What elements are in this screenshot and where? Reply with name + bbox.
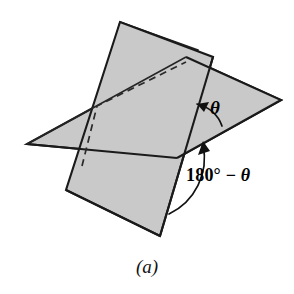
supplementary-theta-glyph: θ [241,165,251,185]
dihedral-angle-diagram [0,0,294,294]
supplementary-prefix: 180° − [186,165,241,185]
figure-caption: (a) [0,256,294,278]
figure-container: θ 180° − θ (a) [0,0,294,294]
theta-angle-label: θ [210,98,220,117]
supplementary-angle-label: 180° − θ [186,166,250,184]
